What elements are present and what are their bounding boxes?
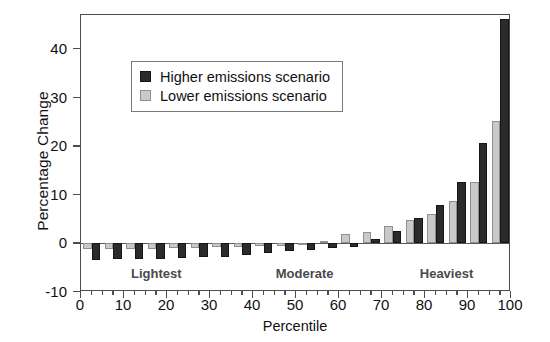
x-axis-minor-tick — [499, 291, 500, 295]
x-axis-minor-tick — [446, 291, 447, 295]
x-axis-tick-label: 70 — [358, 296, 404, 313]
x-axis-tick-label: 80 — [401, 296, 447, 313]
legend-swatch-high-icon — [140, 71, 151, 82]
region-label: Moderate — [276, 266, 334, 281]
x-axis-tick-label: 40 — [229, 296, 275, 313]
bar — [457, 182, 466, 243]
zero-baseline — [81, 243, 509, 244]
bar — [406, 220, 415, 243]
x-axis-tick-label: 50 — [272, 296, 318, 313]
bar — [126, 243, 135, 248]
bar — [178, 243, 187, 258]
bar — [350, 243, 359, 246]
bar — [148, 243, 157, 248]
x-axis-minor-tick — [284, 291, 285, 295]
bar — [156, 243, 165, 259]
bar — [492, 121, 501, 243]
bar — [449, 201, 458, 243]
x-axis-minor-tick — [134, 291, 135, 295]
bar — [83, 243, 92, 249]
chart-legend: Higher emissions scenarioLower emissions… — [131, 61, 343, 112]
region-label: Lightest — [131, 266, 182, 281]
y-axis-tick-label: 20 — [27, 137, 67, 154]
x-axis-minor-tick — [327, 291, 328, 295]
x-axis-minor-tick — [370, 291, 371, 295]
bar — [371, 239, 380, 244]
bar — [199, 243, 208, 257]
x-axis-minor-tick — [489, 291, 490, 295]
region-label: Heaviest — [420, 266, 473, 281]
bar — [113, 243, 122, 259]
x-axis-minor-tick — [198, 291, 199, 295]
x-axis-title: Percentile — [80, 318, 510, 334]
x-axis-minor-tick — [263, 291, 264, 295]
legend-label: Lower emissions scenario — [160, 88, 327, 104]
x-axis-minor-tick — [112, 291, 113, 295]
y-axis-tick-label: 40 — [27, 40, 67, 57]
bar — [341, 234, 350, 243]
x-axis-tick-label: 100 — [487, 296, 533, 313]
x-axis-minor-tick — [349, 291, 350, 295]
x-axis-minor-tick — [102, 291, 103, 295]
x-axis-tick-label: 30 — [186, 296, 232, 313]
bar — [427, 214, 436, 244]
bar — [414, 218, 423, 243]
y-axis-tick — [73, 48, 80, 49]
bar — [320, 241, 329, 243]
bar — [307, 243, 316, 249]
x-axis-minor-tick — [274, 291, 275, 295]
legend-swatch-low-icon — [140, 90, 151, 101]
x-axis-minor-tick — [155, 291, 156, 295]
x-axis-minor-tick — [306, 291, 307, 295]
plot-area: LightestModerateHeaviest — [80, 14, 510, 291]
bar — [212, 243, 221, 247]
bar — [277, 243, 286, 245]
y-axis-tick-label: 10 — [27, 185, 67, 202]
chart-figure: Percentage Change LightestModerateHeavie… — [0, 0, 550, 342]
x-axis-minor-tick — [188, 291, 189, 295]
legend-entry: Lower emissions scenario — [140, 86, 330, 105]
x-axis-minor-tick — [403, 291, 404, 295]
x-axis-minor-tick — [456, 291, 457, 295]
bar — [393, 231, 402, 244]
bar — [298, 243, 307, 245]
x-axis-tick-label: 60 — [315, 296, 361, 313]
x-axis-minor-tick — [241, 291, 242, 295]
y-axis-tick — [73, 291, 80, 292]
bar — [264, 243, 273, 252]
bar — [384, 226, 393, 243]
y-axis-tick — [73, 145, 80, 146]
bar — [470, 182, 479, 243]
y-axis-tick — [73, 194, 80, 195]
y-axis-tick-label: 30 — [27, 88, 67, 105]
x-axis-minor-tick — [360, 291, 361, 295]
bar — [500, 19, 509, 244]
bar — [363, 232, 372, 244]
x-axis-minor-tick — [413, 291, 414, 295]
legend-label: Higher emissions scenario — [160, 69, 330, 85]
y-axis-tick-label: 0 — [27, 234, 67, 251]
y-axis-tick — [73, 97, 80, 98]
x-axis-minor-tick — [91, 291, 92, 295]
bar — [135, 243, 144, 259]
x-axis-minor-tick — [220, 291, 221, 295]
x-axis-minor-tick — [231, 291, 232, 295]
bar — [92, 243, 101, 260]
x-axis-tick-label: 20 — [143, 296, 189, 313]
x-axis-minor-tick — [177, 291, 178, 295]
bar — [169, 243, 178, 248]
x-axis-tick-label: 90 — [444, 296, 490, 313]
x-axis-minor-tick — [317, 291, 318, 295]
x-axis-minor-tick — [392, 291, 393, 295]
x-axis-minor-tick — [435, 291, 436, 295]
x-axis-minor-tick — [478, 291, 479, 295]
bar — [436, 205, 445, 243]
bar — [242, 243, 251, 255]
bar — [255, 243, 264, 246]
x-axis-tick-label: 0 — [57, 296, 103, 313]
bar — [285, 243, 294, 251]
bar — [328, 243, 337, 248]
bar — [234, 243, 243, 246]
x-axis-minor-tick — [145, 291, 146, 295]
bar — [479, 143, 488, 244]
